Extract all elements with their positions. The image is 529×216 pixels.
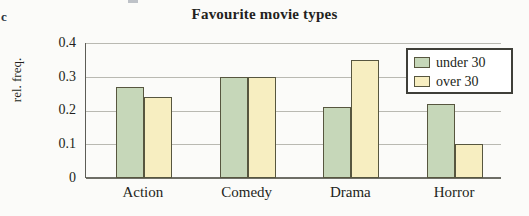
bar-group (116, 43, 172, 178)
x-tick-label: Action (88, 184, 198, 201)
x-axis-labels: ActionComedyDramaHorror (85, 184, 500, 212)
y-tick-label: 0.3 (30, 69, 76, 85)
legend: under 30 over 30 (406, 48, 513, 94)
x-tick-label: Drama (295, 184, 405, 201)
bar-action-under-30 (116, 87, 144, 178)
legend-swatch-icon (414, 57, 430, 68)
legend-label: over 30 (436, 75, 478, 89)
y-tick-label: 0.2 (30, 102, 76, 118)
bar-comedy-under-30 (220, 77, 248, 178)
y-tick-label: 0.1 (30, 136, 76, 152)
y-tick-label: 0 (30, 170, 76, 186)
legend-item-under-30: under 30 (414, 53, 511, 72)
chart-figure: c Favourite movie types rel. freq. 0.4 0… (0, 0, 529, 216)
bar-drama-over-30 (351, 60, 379, 178)
bar-group (220, 43, 276, 178)
bar-drama-under-30 (323, 107, 351, 178)
y-tick-label: 0.4 (30, 35, 76, 51)
legend-item-over-30: over 30 (414, 72, 511, 91)
bar-action-over-30 (144, 97, 172, 178)
y-axis: rel. freq. 0.4 0.3 0.2 0.1 0 (0, 0, 85, 216)
y-axis-title: rel. freq. (9, 37, 25, 123)
bar-comedy-over-30 (248, 77, 276, 178)
x-tick-label: Comedy (192, 184, 302, 201)
bar-group (323, 43, 379, 178)
cropped-text-fragment (128, 0, 138, 3)
legend-swatch-icon (414, 76, 430, 87)
bar-horror-under-30 (427, 104, 455, 178)
x-tick-label: Horror (399, 184, 509, 201)
bar-horror-over-30 (455, 144, 483, 178)
legend-label: under 30 (436, 56, 485, 70)
